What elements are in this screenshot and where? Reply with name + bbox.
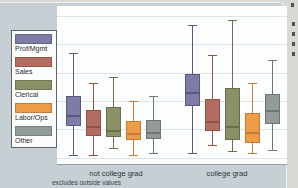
median-other xyxy=(266,110,279,112)
median-prof-mgmt xyxy=(67,115,80,117)
whisker-cap-bottom-clerical xyxy=(109,148,118,149)
box-sales xyxy=(205,99,220,131)
legend-label: Sales xyxy=(15,68,56,76)
whisker-cap-top-clerical xyxy=(109,77,118,78)
legend-label: Prof/Mgmt xyxy=(15,45,56,53)
legend-swatch xyxy=(15,34,52,44)
box-clerical xyxy=(106,107,121,137)
cutoff-text-fragment xyxy=(292,22,295,26)
whisker-cap-top-labor-ops xyxy=(248,83,257,84)
legend-item-prof-mgmt: Prof/Mgmt xyxy=(15,34,56,53)
whisker-cap-bottom-labor-ops xyxy=(248,153,257,154)
legend-label: Clerical xyxy=(15,91,56,99)
box-labor-ops xyxy=(245,113,260,143)
legend-item-clerical: Clerical xyxy=(15,80,56,99)
whisker-cap-bottom-prof-mgmt xyxy=(188,153,197,154)
legend: Prof/MgmtSalesClericalLabor/OpsOther xyxy=(11,30,57,148)
median-other xyxy=(147,132,160,134)
median-sales xyxy=(206,121,219,123)
plot-area xyxy=(57,6,287,165)
median-sales xyxy=(87,126,100,128)
cutoff-text-fragment xyxy=(292,52,295,56)
box-prof-mgmt xyxy=(66,96,81,126)
whisker-cap-bottom-labor-ops xyxy=(129,155,138,156)
legend-item-labor-ops: Labor/Ops xyxy=(15,103,56,122)
cutoff-text-fragment xyxy=(291,3,294,7)
gridline xyxy=(57,73,287,74)
whisker-cap-top-prof-mgmt xyxy=(188,25,197,26)
whisker-cap-bottom-sales xyxy=(89,155,98,156)
whisker-cap-bottom-prof-mgmt xyxy=(69,155,78,156)
gridline xyxy=(57,44,287,45)
cutoff-text-fragment xyxy=(292,32,295,36)
legend-label: Labor/Ops xyxy=(15,114,56,122)
whisker-cap-top-labor-ops xyxy=(129,101,138,102)
whisker-cap-top-other xyxy=(149,96,158,97)
x-group-label-college-grad: college grad xyxy=(207,169,248,178)
box-prof-mgmt xyxy=(185,74,200,106)
median-clerical xyxy=(226,126,239,128)
figure-frame: Prof/MgmtSalesClericalLabor/OpsOther not… xyxy=(0,2,287,188)
box-clerical xyxy=(225,88,240,140)
whisker-cap-top-sales xyxy=(89,83,98,84)
median-clerical xyxy=(107,130,120,132)
box-sales xyxy=(86,110,101,135)
chart-footnote: excludes outside values xyxy=(52,179,121,187)
whisker-cap-top-prof-mgmt xyxy=(69,53,78,54)
whisker-cap-bottom-other xyxy=(268,150,277,151)
whisker-cap-top-other xyxy=(268,60,277,61)
x-group-label-not-college-grad: not college grad xyxy=(89,169,142,178)
median-labor-ops xyxy=(246,132,259,134)
box-labor-ops xyxy=(126,121,141,140)
median-labor-ops xyxy=(127,133,140,135)
whisker-cap-bottom-clerical xyxy=(228,151,237,152)
legend-item-other: Other xyxy=(15,126,56,145)
legend-swatch xyxy=(15,57,52,67)
legend-swatch xyxy=(15,103,52,113)
legend-item-sales: Sales xyxy=(15,57,56,76)
gridline xyxy=(57,158,287,159)
cutoff-text-fragment xyxy=(292,42,295,46)
legend-swatch xyxy=(15,126,52,136)
whisker-cap-bottom-other xyxy=(149,153,158,154)
gridline xyxy=(57,16,287,17)
whisker-cap-bottom-sales xyxy=(208,145,217,146)
box-other xyxy=(146,120,161,139)
whisker-cap-top-clerical xyxy=(228,20,237,21)
whisker-cap-top-sales xyxy=(208,55,217,56)
legend-swatch xyxy=(15,80,52,90)
legend-label: Other xyxy=(15,137,56,145)
median-prof-mgmt xyxy=(186,92,199,94)
